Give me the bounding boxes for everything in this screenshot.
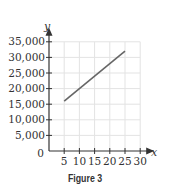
x-tick-label: 30: [134, 155, 147, 167]
y-tick-label: 15,000: [8, 98, 45, 110]
y-tick-label: 35,000: [8, 35, 45, 47]
figure-caption: Figure 3: [10, 173, 160, 184]
y-axis-title: y: [43, 20, 51, 33]
x-tick-label: 10: [73, 155, 86, 167]
y-tick-label: 30,000: [8, 51, 45, 63]
y-tick-label: 25,000: [8, 67, 45, 79]
ticks: [46, 42, 140, 154]
y-tick-label: 20,000: [8, 82, 45, 94]
tick-labels: 510152025305,00010,00015,00020,00025,000…: [8, 35, 147, 167]
x-tick-label: 5: [61, 155, 68, 167]
y-tick-label: 5,000: [15, 129, 45, 141]
line-chart: 510152025305,00010,00015,00020,00025,000…: [0, 0, 170, 194]
grid-lines: [49, 42, 140, 151]
x-axis-title: x: [151, 146, 158, 159]
y-tick-label: 10,000: [8, 113, 45, 125]
x-tick-label: 20: [103, 155, 116, 167]
x-tick-label: 25: [118, 155, 131, 167]
x-tick-label: 15: [88, 155, 101, 167]
origin-label: 0: [37, 147, 44, 159]
